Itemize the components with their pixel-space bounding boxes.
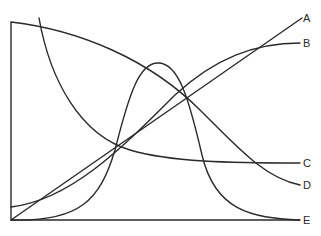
label-b: B: [303, 37, 310, 49]
label-d: D: [303, 179, 311, 191]
label-c: C: [303, 157, 311, 169]
curve-e: [11, 63, 300, 220]
curve-d: [11, 22, 300, 185]
chart: A B C D E: [0, 0, 321, 236]
label-a: A: [303, 12, 311, 24]
label-e: E: [303, 214, 310, 226]
curve-b: [11, 43, 300, 207]
curve-c: [39, 18, 300, 163]
